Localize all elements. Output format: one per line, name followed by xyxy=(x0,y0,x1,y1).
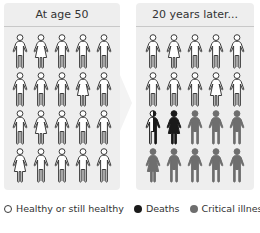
female-person-critical-icon xyxy=(142,148,163,186)
female-person-death-icon xyxy=(163,110,184,148)
people-grid-before xyxy=(4,34,120,186)
legend-label: Critical illness xyxy=(202,203,260,214)
male-person-healthy-icon xyxy=(31,72,52,110)
female-person-healthy-icon xyxy=(206,72,227,110)
male-person-critical-icon xyxy=(206,148,227,186)
people-grid-after xyxy=(136,34,254,186)
legend-label: Deaths xyxy=(146,203,180,214)
arrow-right-icon xyxy=(120,75,132,131)
legend-item-critical: Critical illness xyxy=(190,203,260,214)
male-person-healthy-icon xyxy=(184,34,205,72)
male-person-critical-icon xyxy=(184,110,205,148)
critical-dot-icon xyxy=(190,205,198,213)
male-person-healthy-icon xyxy=(93,110,114,148)
male-person-healthy-icon xyxy=(72,34,93,72)
male-person-healthy-icon xyxy=(10,110,31,148)
male-person-healthy-icon xyxy=(72,110,93,148)
legend: Healthy or still healthy Deaths Critical… xyxy=(4,203,260,214)
male-person-healthy-icon xyxy=(142,34,163,72)
panel-20-years-later: 20 years later... xyxy=(136,3,254,190)
female-person-healthy-icon xyxy=(10,148,31,186)
male-person-healthy-icon xyxy=(184,72,205,110)
male-person-healthy-icon xyxy=(52,148,73,186)
male-person-healthy-icon xyxy=(163,72,184,110)
male-person-healthy-icon xyxy=(227,34,248,72)
male-person-healthy-icon xyxy=(52,34,73,72)
male-person-healthy-icon xyxy=(52,72,73,110)
panel-at-age-50: At age 50 xyxy=(4,3,120,190)
legend-item-healthy: Healthy or still healthy xyxy=(4,203,124,214)
legend-label: Healthy or still healthy xyxy=(16,203,124,214)
male-person-critical-icon xyxy=(163,148,184,186)
male-person-critical-icon xyxy=(227,110,248,148)
male-person-healthy-icon xyxy=(93,148,114,186)
panel-title: At age 50 xyxy=(4,3,120,27)
male-person-healthy-icon xyxy=(31,148,52,186)
male-person-healthy-icon xyxy=(52,110,73,148)
male-person-healthy-icon xyxy=(10,72,31,110)
death-dot-icon xyxy=(134,205,142,213)
male-person-critical-icon xyxy=(227,148,248,186)
female-person-healthy-icon xyxy=(72,72,93,110)
male-person-healthy-icon xyxy=(206,34,227,72)
male-person-critical-icon xyxy=(184,148,205,186)
female-person-healthy-icon xyxy=(31,34,52,72)
panel-title: 20 years later... xyxy=(136,3,254,27)
legend-item-deaths: Deaths xyxy=(134,203,180,214)
female-person-healthy-icon xyxy=(163,34,184,72)
male-person-healthy-icon xyxy=(142,72,163,110)
male-person-healthy-icon xyxy=(227,72,248,110)
female-person-healthy-icon xyxy=(31,110,52,148)
male-person-half-death-icon xyxy=(142,110,163,148)
male-person-healthy-icon xyxy=(72,148,93,186)
male-person-healthy-icon xyxy=(10,34,31,72)
healthy-dot-icon xyxy=(4,205,12,213)
male-person-healthy-icon xyxy=(93,72,114,110)
male-person-critical-icon xyxy=(206,110,227,148)
male-person-healthy-icon xyxy=(93,34,114,72)
